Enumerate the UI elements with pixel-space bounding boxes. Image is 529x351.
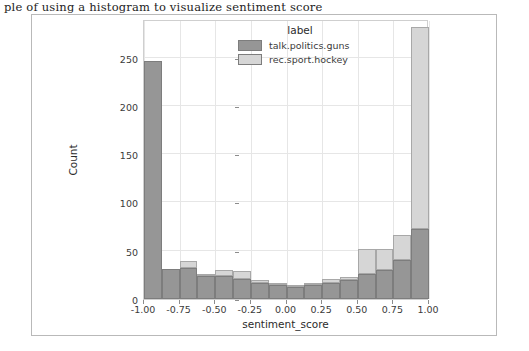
- legend-item[interactable]: rec.sport.hockey: [236, 53, 364, 66]
- x-tick-mark: [321, 300, 322, 304]
- x-tick-label: -0.25: [238, 304, 263, 315]
- legend-item[interactable]: talk.politics.guns: [236, 39, 364, 52]
- histogram-bar-stack: [358, 249, 376, 299]
- legend-item-label: rec.sport.hockey: [269, 54, 348, 65]
- bar-segment-talk-politics-guns: [376, 270, 394, 299]
- x-tick-label: -1.00: [131, 304, 156, 315]
- x-tick-label: -0.75: [166, 304, 191, 315]
- y-tick-mark: [235, 252, 239, 253]
- legend: label talk.politics.gunsrec.sport.hockey: [236, 24, 364, 67]
- y-tick-mark: [235, 203, 239, 204]
- y-axis-ticks: 050100150200250: [96, 20, 138, 300]
- x-axis-label: sentiment_score: [143, 318, 428, 330]
- bar-segment-talk-politics-guns: [180, 268, 198, 299]
- x-tick-label: 0.00: [275, 304, 296, 315]
- bar-segment-rec-sport-hockey: [180, 261, 198, 268]
- histogram-bar-stack: [393, 235, 411, 299]
- y-tick-mark: [235, 155, 239, 156]
- y-tick-label: 150: [100, 150, 138, 161]
- bar-segment-talk-politics-guns: [322, 283, 340, 299]
- bar-segment-talk-politics-guns: [411, 229, 429, 299]
- histogram-bar-stack: [162, 269, 180, 299]
- x-tick-label: 0.75: [382, 304, 403, 315]
- bar-segment-talk-politics-guns: [144, 61, 162, 299]
- chart-container: 050100150200250 -1.00-0.75-0.50-0.250.00…: [0, 0, 529, 351]
- histogram-bar-stack: [197, 275, 215, 299]
- bar-segment-talk-politics-guns: [162, 269, 180, 299]
- x-tick-mark: [286, 300, 287, 304]
- histogram-bar-stack: [144, 61, 162, 299]
- bar-segment-rec-sport-hockey: [233, 271, 251, 279]
- bar-segment-rec-sport-hockey: [376, 249, 394, 270]
- x-tick-mark: [392, 300, 393, 304]
- histogram-bar-stack: [287, 286, 305, 299]
- legend-swatch: [238, 54, 262, 65]
- x-tick-mark: [250, 300, 251, 304]
- histogram-bar-stack: [233, 271, 251, 299]
- bar-segment-talk-politics-guns: [251, 283, 269, 299]
- x-tick-mark: [357, 300, 358, 304]
- histogram-bar-stack: [340, 277, 358, 299]
- y-tick-label: 100: [100, 198, 138, 209]
- y-tick-label: 250: [100, 53, 138, 64]
- legend-swatch: [238, 40, 262, 51]
- gridline-vertical: [429, 21, 430, 299]
- x-tick-label: 1.00: [417, 304, 438, 315]
- x-tick-label: 0.25: [311, 304, 332, 315]
- histogram-bar-stack: [411, 27, 429, 299]
- y-axis-label: Count: [67, 144, 79, 175]
- x-axis-ticks: -1.00-0.75-0.50-0.250.000.250.500.751.00: [143, 300, 428, 316]
- histogram-bar-stack: [251, 280, 269, 299]
- bar-segment-talk-politics-guns: [215, 276, 233, 299]
- x-tick-label: 0.50: [346, 304, 367, 315]
- histogram-bar-stack: [269, 284, 287, 299]
- bar-segment-talk-politics-guns: [358, 274, 376, 299]
- bar-segment-talk-politics-guns: [340, 280, 358, 299]
- bar-segment-talk-politics-guns: [304, 285, 322, 299]
- bar-segment-talk-politics-guns: [197, 276, 215, 299]
- x-tick-label: -0.50: [202, 304, 227, 315]
- bar-segment-talk-politics-guns: [269, 285, 287, 299]
- histogram-bar-stack: [304, 285, 322, 299]
- y-tick-label: 200: [100, 101, 138, 112]
- x-tick-mark: [214, 300, 215, 304]
- x-tick-mark: [428, 300, 429, 304]
- bar-segment-rec-sport-hockey: [358, 249, 376, 274]
- bar-segment-talk-politics-guns: [287, 287, 305, 299]
- bar-segment-talk-politics-guns: [233, 279, 251, 299]
- histogram-bar-stack: [322, 279, 340, 299]
- legend-item-label: talk.politics.guns: [269, 40, 349, 51]
- legend-items: talk.politics.gunsrec.sport.hockey: [236, 39, 364, 66]
- bar-segment-rec-sport-hockey: [393, 235, 411, 260]
- histogram-bar-stack: [215, 270, 233, 299]
- histogram-bar-stack: [180, 261, 198, 299]
- y-tick-label: 50: [100, 246, 138, 257]
- bar-segment-rec-sport-hockey: [411, 27, 429, 230]
- x-tick-mark: [179, 300, 180, 304]
- bar-segment-talk-politics-guns: [393, 260, 411, 299]
- histogram-bar-stack: [376, 249, 394, 299]
- y-tick-mark: [235, 107, 239, 108]
- legend-title: label: [236, 24, 364, 36]
- x-tick-mark: [143, 300, 144, 304]
